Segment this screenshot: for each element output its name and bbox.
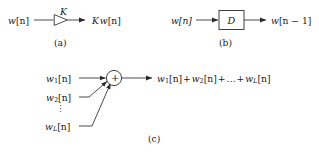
panel-letter-c: (c): [148, 134, 160, 143]
adder-input-2-label: w2[n]: [46, 93, 71, 104]
signal-flow-block-diagram-figure: w[n] K K w[n] (a) w[n] D w[n − 1] (b) w1…: [0, 0, 319, 152]
panel-b-input-label: w[n]: [171, 16, 192, 25]
panel-letter-b: (b): [219, 38, 232, 47]
delay-block-label: D: [228, 15, 236, 26]
panel-a-output-label: K w[n]: [92, 16, 121, 25]
panel-a-input-label: w[n]: [8, 16, 29, 25]
adder-inputs-vertical-ellipsis: ⋮: [56, 105, 65, 114]
panel-b-output-label: w[n − 1]: [271, 16, 311, 25]
adder-input-L-label: wL[n]: [45, 122, 70, 133]
adder-input-L-line: [79, 84, 111, 127]
adder-input-2-line: [79, 82, 107, 98]
adder-input-1-label: w1[n]: [46, 74, 71, 85]
gain-value-label: K: [60, 6, 67, 17]
adder-output-label: w1[n] + w2[n] + … + wL[n]: [157, 74, 270, 85]
plus-operator-icon: +: [111, 73, 119, 83]
panel-letter-a: (a): [54, 38, 67, 47]
